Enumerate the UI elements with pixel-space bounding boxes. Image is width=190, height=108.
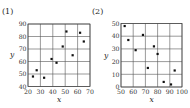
- y-tick-label: 50: [112, 20, 120, 27]
- data-point: [174, 69, 176, 71]
- data-point: [79, 32, 81, 34]
- data-point: [72, 54, 74, 56]
- data-point: [50, 58, 52, 60]
- data-point: [135, 49, 137, 51]
- x-tick-label: 90: [166, 88, 174, 95]
- y-tick-label: 10: [112, 71, 120, 78]
- data-point: [83, 40, 85, 42]
- plot-frame: [121, 24, 182, 88]
- x-tick-label: 60: [129, 88, 137, 95]
- y-tick-label: 0: [116, 83, 120, 90]
- x-axis-label: x: [149, 95, 154, 104]
- scatter-plots: 203040506070405060708090xy50607080901000…: [0, 0, 190, 108]
- data-point: [127, 39, 129, 41]
- data-point: [55, 62, 57, 64]
- y-axis-label: y: [9, 50, 15, 59]
- data-point: [32, 75, 34, 77]
- data-point: [36, 69, 38, 71]
- data-point: [163, 81, 165, 83]
- y-axis-label: y: [103, 51, 109, 60]
- data-point: [157, 53, 159, 55]
- x-tick-label: 50: [61, 88, 69, 95]
- x-tick-label: 100: [176, 88, 188, 95]
- data-point: [170, 83, 172, 85]
- y-tick-label: 40: [112, 32, 120, 39]
- data-point: [65, 30, 67, 32]
- x-tick-label: 70: [86, 88, 94, 95]
- x-tick-label: 30: [36, 88, 44, 95]
- x-tick-label: 70: [141, 88, 149, 95]
- x-axis-label: x: [57, 95, 62, 104]
- x-tick-label: 80: [154, 88, 162, 95]
- scatter-chart-2: 506070809010001020304050xy: [103, 20, 188, 104]
- y-tick-label: 30: [112, 45, 120, 52]
- y-tick-label: 90: [19, 20, 27, 27]
- data-point: [124, 25, 126, 27]
- data-point: [62, 45, 64, 47]
- y-tick-label: 60: [19, 58, 27, 65]
- y-tick-label: 80: [19, 33, 27, 40]
- scatter-chart-1: 203040506070405060708090xy: [9, 20, 94, 103]
- data-point: [147, 67, 149, 69]
- data-point: [142, 34, 144, 36]
- y-tick-label: 20: [112, 58, 120, 65]
- y-tick-label: 40: [19, 83, 27, 90]
- y-tick-label: 50: [19, 70, 27, 77]
- data-point: [43, 77, 45, 79]
- x-tick-label: 60: [74, 88, 82, 95]
- data-point: [153, 45, 155, 47]
- y-tick-label: 70: [19, 45, 27, 52]
- x-tick-label: 40: [49, 88, 57, 95]
